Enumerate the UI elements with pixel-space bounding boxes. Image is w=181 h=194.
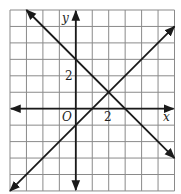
y-axis-label: y: [61, 11, 69, 25]
x-axis-label: x: [163, 110, 170, 124]
origin-label: O: [62, 110, 72, 124]
grid: [10, 10, 175, 191]
coordinate-graph: y x O 2 2: [0, 0, 181, 194]
decreasing-line: [26, 10, 174, 158]
labels: y x O 2 2: [61, 11, 170, 124]
x-tick-label: 2: [104, 110, 112, 124]
y-tick-label: 2: [65, 69, 73, 83]
